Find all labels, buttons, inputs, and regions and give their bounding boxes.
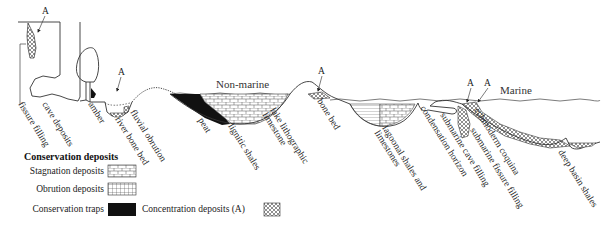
label-bone-bed: bone bed [315,97,342,132]
amber-resin-deposit [91,88,96,98]
echinoderm-marker-a2: A [484,78,491,88]
lagoonal-shales-deposit [350,104,380,126]
legend-label-obrution: Obrution deposits [36,184,104,194]
legend-swatch-conservation-traps [108,203,136,216]
non-marine-label: Non-marine [216,78,269,90]
legend-swatch-stagnation [108,165,136,177]
label-lagoonal-1: lagoonal shales and [380,124,428,193]
legend: Conservation deposits Stagnation deposit… [24,151,280,216]
legend-title: Conservation deposits [24,151,118,162]
legend-label-stagnation: Stagnation deposits [30,166,104,176]
legend-label-concentration: Concentration deposits (A) [142,204,245,215]
legend-item-concentration: Concentration deposits (A) [142,203,280,216]
legend-item-conservation-traps: Conservation traps [32,203,136,216]
river-marker: A [118,67,125,77]
fissure-marker: A [42,6,49,16]
echinoderm-marker-a1: A [467,78,474,88]
label-lignitic-shales: lignitic shales [226,122,262,172]
label-deep-basin-shales: deep basin shales [556,148,600,209]
bone-bed-marker: A [318,66,325,76]
sea-surface [330,99,600,101]
conservation-deposits-diagram: Non-marine A Marine A A A A fissure fill… [0,0,615,228]
legend-label-conservation-traps: Conservation traps [32,204,104,214]
bone-bed-site: A [308,66,330,99]
legend-swatch-obrution [108,183,136,195]
legend-item-stagnation: Stagnation deposits [30,165,136,177]
lake-basin: Non-marine [170,78,335,125]
river-channel [105,103,130,117]
lagoon-basin [335,98,418,126]
fissure-cave-block [18,22,80,105]
legend-swatch-concentration [264,203,280,216]
label-amber: amber [86,100,108,126]
deep-basin-deposit [568,143,596,148]
marine-label: Marine [500,84,532,96]
legend-item-obrution: Obrution deposits [36,183,136,195]
fissure-filling-deposit [27,23,36,58]
